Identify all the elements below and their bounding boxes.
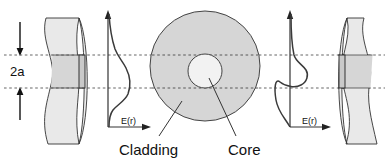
right-fiber-core-band [343,55,373,88]
right-plot-axis-label: E(r) [302,116,317,126]
left-fiber-core-stripe [79,55,85,88]
left-fiber-core-band [51,55,79,88]
core-circle [188,54,222,88]
left-plot-axis-label: E(r) [121,116,136,126]
fiber-cross-section [150,11,260,121]
cladding-label: Cladding [119,141,178,158]
fiber-mode-field-figure: 2a E(r) Cladding Core E [0,0,389,165]
core-label: Core [228,141,261,158]
right-fiber-core-stripe [339,55,345,88]
dimension-label-2a: 2a [10,64,25,79]
